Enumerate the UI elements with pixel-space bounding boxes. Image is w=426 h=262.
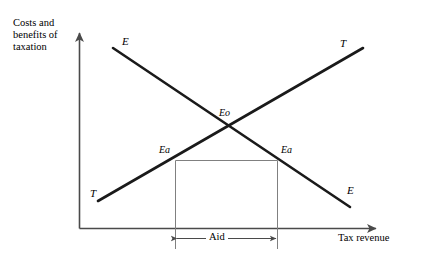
curve-label-t-upper-right: T [340,38,346,49]
x-axis-label: Tax revenue [338,232,389,244]
figure-canvas: Costs and benefits of taxation Tax reven… [0,0,426,262]
curve-e [113,48,350,207]
curve-t [98,48,363,201]
point-label-aid-left: Ea [159,145,170,155]
point-label-aid-right: Ea [281,145,292,155]
point-label-equilibrium: Eo [219,108,230,118]
aid-bracket-label: Aid [206,231,228,242]
curve-label-e-lower-right: E [347,185,354,196]
curve-label-e-upper-left: E [122,36,129,47]
curve-label-t-lower-left: T [90,188,96,199]
y-axis-label: Costs and benefits of taxation [13,17,79,54]
